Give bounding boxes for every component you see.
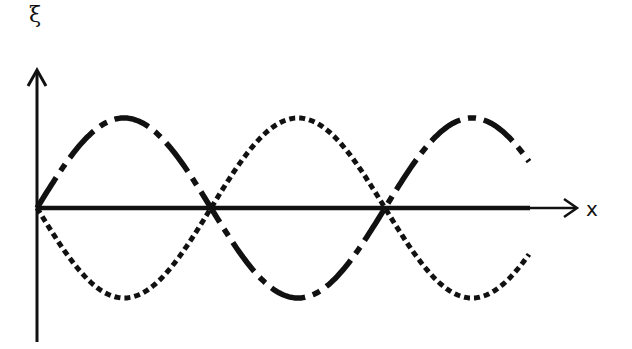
y-axis-label: ξ	[29, 2, 41, 27]
x-axis-label: x	[586, 197, 598, 221]
wave-diagram	[0, 0, 632, 349]
